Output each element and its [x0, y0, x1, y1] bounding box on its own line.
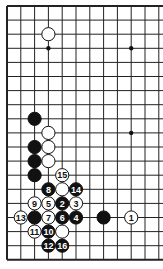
- star-point-icon: [46, 46, 50, 50]
- black-stone-move-6: 6: [56, 211, 69, 224]
- move-number: 5: [46, 199, 51, 209]
- white-stone-icon: [42, 28, 55, 41]
- move-number: 11: [30, 227, 40, 237]
- black-stone-move-2: 2: [56, 197, 69, 210]
- move-number: 15: [57, 170, 67, 180]
- move-number: 13: [16, 213, 26, 223]
- white-stone: [42, 126, 55, 139]
- black-stone-move-12: 12: [42, 239, 55, 252]
- star-point-icon: [129, 131, 133, 135]
- move-number: 7: [46, 213, 51, 223]
- white-stone-icon: [42, 140, 55, 153]
- black-stone-icon: [28, 140, 41, 153]
- black-stone: [28, 169, 41, 182]
- black-stone-icon: [97, 211, 110, 224]
- white-stone-move-3: 3: [69, 197, 82, 210]
- go-board: 15814952313764111101216: [0, 0, 163, 269]
- black-stone: [28, 211, 41, 224]
- white-stone-move-9: 9: [28, 197, 41, 210]
- white-stone: [56, 183, 69, 196]
- black-stone-icon: [28, 169, 41, 182]
- black-stone-move-16: 16: [56, 239, 69, 252]
- white-stone: [42, 155, 55, 168]
- black-stone-move-4: 4: [69, 211, 82, 224]
- black-stone: [28, 155, 41, 168]
- move-number: 1: [129, 213, 134, 223]
- white-stone-move-1: 1: [125, 211, 138, 224]
- white-stone-move-13: 13: [14, 211, 27, 224]
- black-stone: [28, 112, 41, 125]
- black-stone-move-14: 14: [69, 183, 82, 196]
- move-number: 3: [73, 199, 78, 209]
- black-stone: [97, 211, 110, 224]
- white-stone: [42, 28, 55, 41]
- black-stone-icon: [28, 211, 41, 224]
- move-number: 12: [43, 241, 53, 251]
- black-stone-move-10: 10: [42, 225, 55, 238]
- move-number: 10: [43, 227, 53, 237]
- white-stone-move-15: 15: [56, 169, 69, 182]
- black-stone-move-8: 8: [42, 183, 55, 196]
- white-stone-icon: [56, 183, 69, 196]
- move-number: 9: [32, 199, 37, 209]
- white-stone: [56, 225, 69, 238]
- move-number: 8: [46, 185, 51, 195]
- white-stone-move-7: 7: [42, 211, 55, 224]
- white-stone-move-11: 11: [28, 225, 41, 238]
- white-stone-icon: [42, 126, 55, 139]
- move-number: 4: [73, 213, 78, 223]
- star-point-icon: [129, 46, 133, 50]
- black-stone-icon: [28, 155, 41, 168]
- white-stone-icon: [42, 155, 55, 168]
- move-number: 16: [57, 241, 67, 251]
- white-stone: [42, 140, 55, 153]
- black-stone-icon: [28, 112, 41, 125]
- move-number: 14: [71, 185, 81, 195]
- black-stone: [28, 140, 41, 153]
- white-stone-move-5: 5: [42, 197, 55, 210]
- move-number: 2: [60, 199, 65, 209]
- white-stone-icon: [56, 225, 69, 238]
- move-number: 6: [60, 213, 65, 223]
